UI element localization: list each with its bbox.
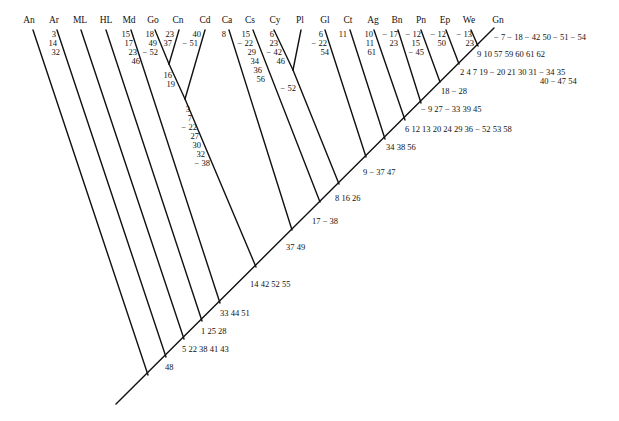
branch-an [33,30,148,375]
taxon-label: Ct [344,15,353,25]
taxon-label: An [23,15,35,25]
character-cy-pl: − 52 [281,83,296,93]
taxon-label: Cn [172,15,183,25]
taxon-label: Ca [222,15,233,25]
character-node-ca: 37 49 [286,242,305,252]
branch-pl [293,30,301,70]
taxon-label: Ep [440,15,451,25]
character-node-hl: 1 25 28 [201,326,227,336]
character-node-ar: 48 [165,362,174,372]
character-cd: − 51 [183,38,198,48]
character-ar: 32 [52,47,61,57]
character-node-ct: 34 38 56 [386,142,416,152]
internal-characters-clade: 16 19 3 7 − 22 27 30 32 − 38 − 52 [164,70,297,168]
taxon-label: Ag [367,15,379,25]
taxon-label: ML [73,15,87,25]
branch-hl [106,30,202,321]
cladogram: An Ar ML HL Md Go Cn Cd Ca Cs Cy Pl Gl C… [0,0,619,421]
taxon-label: Bn [391,15,402,25]
taxon-label: Gl [320,15,330,25]
character-node-ep: 40 − 47 54 [540,76,577,86]
taxon-label: Ar [49,15,60,25]
character-cn: 37 [164,38,173,48]
character-go-cn-cd: − 38 [195,158,210,168]
character-ep: 50 [438,38,447,48]
character-ct: 11 [339,29,347,39]
taxon-label: Cd [199,15,210,25]
character-node-pn: 18 − 28 [441,86,467,96]
character-we: 23 [466,38,475,48]
character-node-cd: 14 42 52 55 [250,279,290,289]
character-node-gl: 9 − 37 47 [363,167,395,177]
branch-gl [325,30,366,157]
character-cs: 56 [257,74,266,84]
character-md: 46 [132,56,141,66]
taxon-label: Cy [269,15,280,25]
character-gl: 54 [321,47,330,57]
taxon-label: Gn [492,15,504,25]
character-cy: 46 [277,56,286,66]
taxon-label: We [463,15,475,25]
taxon-label: Go [147,15,159,25]
character-go-cn: 19 [167,79,176,89]
character-node-ag: 6 12 13 20 24 29 36 − 52 53 58 [405,124,512,134]
character-node-we-gn: 9 10 57 59 60 61 62 [477,49,545,59]
taxon-label: Cs [245,15,255,25]
character-node-cs: 17 − 38 [312,216,338,226]
taxon-label: Pn [416,15,426,25]
character-ag: 61 [368,47,377,57]
taxon-label: Pl [296,15,304,25]
terminal-characters: 3 14 32 15 17 23 46 18 49 − 52 23 37 40 … [49,29,475,84]
character-node-bn: − 9 27 − 33 39 45 [421,104,482,114]
taxon-label: HL [100,15,113,25]
character-node-md: 33 44 51 [220,308,250,318]
taxon-labels: An Ar ML HL Md Go Cn Cd Ca Cs Cy Pl Gl C… [23,15,504,25]
character-bn: 23 [390,38,399,48]
character-pn: − 45 [409,47,424,57]
branch-ar [57,30,166,357]
character-node-cy: 8 16 26 [335,193,361,203]
character-gn: − 7 − 18 − 42 50 − 51 − 54 [494,32,587,42]
taxon-label: Md [122,15,135,25]
character-go: − 52 [143,47,158,57]
branch-cy-pl [293,70,339,184]
character-node-ml: 5 22 38 41 43 [182,344,229,354]
character-ca: 8 [222,29,226,39]
